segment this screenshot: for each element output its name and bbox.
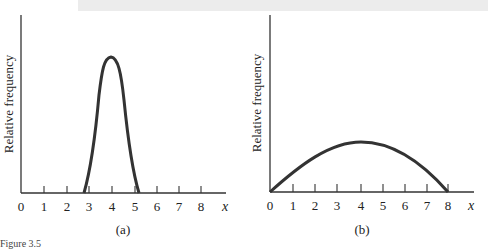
svg-text:7: 7: [176, 199, 183, 214]
bell-curve-a: [84, 57, 139, 193]
arch-curve-b: [270, 142, 448, 192]
svg-text:3: 3: [86, 199, 93, 214]
svg-text:5: 5: [132, 199, 139, 214]
svg-text:6: 6: [154, 199, 161, 214]
x-axis-label-a: x: [221, 199, 229, 214]
svg-text:4: 4: [358, 198, 365, 213]
svg-text:0: 0: [267, 198, 274, 213]
svg-text:6: 6: [402, 198, 409, 213]
svg-text:3: 3: [334, 198, 341, 213]
svg-text:1: 1: [41, 199, 48, 214]
svg-text:5: 5: [380, 198, 387, 213]
svg-text:2: 2: [312, 198, 319, 213]
svg-text:1: 1: [290, 198, 297, 213]
svg-text:4: 4: [109, 199, 116, 214]
figure-caption: Figure 3.5: [0, 238, 41, 249]
panel-label-b: (b): [354, 222, 369, 237]
y-axis-label-b: Relative frequency: [249, 53, 264, 152]
x-ticks-b: [293, 184, 448, 192]
svg-text:7: 7: [424, 198, 431, 213]
x-axis-label-b: x: [467, 198, 475, 213]
svg-text:0: 0: [18, 199, 25, 214]
panel-label-a: (a): [116, 222, 130, 237]
chart-a: 0 1 2 3 4 5 6 7 8 x Relative frequency (…: [1, 15, 229, 237]
svg-text:8: 8: [198, 199, 205, 214]
x-tick-labels-b: 0 1 2 3 4 5 6 7 8: [267, 198, 452, 213]
svg-text:8: 8: [445, 198, 452, 213]
y-axis-label-a: Relative frequency: [1, 54, 16, 153]
svg-text:2: 2: [64, 199, 71, 214]
chart-b: 0 1 2 3 4 5 6 7 8 x Relative frequency (…: [249, 15, 475, 237]
x-tick-labels-a: 0 1 2 3 4 5 6 7 8: [18, 199, 205, 214]
x-ticks-a: [44, 186, 201, 193]
